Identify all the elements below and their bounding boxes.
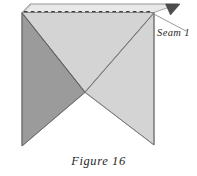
seam-1-annotation-label: Seam 1: [157, 28, 190, 39]
dark-corner-triangle-icon: [166, 4, 181, 15]
figure-caption: Figure 16: [0, 155, 197, 168]
figure-16-container: Seam 1 Figure 16: [0, 0, 197, 176]
